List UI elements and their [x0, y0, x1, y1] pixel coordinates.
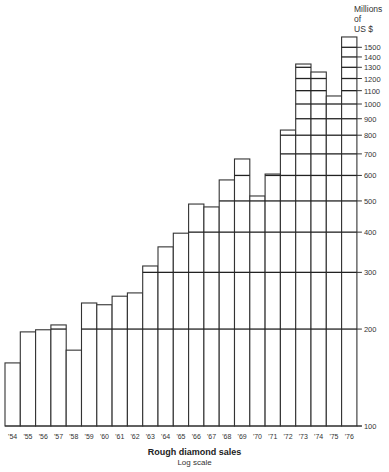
bar	[66, 350, 81, 426]
y-tick-label: 1500	[364, 43, 381, 52]
unit-line-1: Millions	[354, 4, 382, 14]
bar	[20, 332, 35, 426]
x-tick-label: '59	[85, 433, 94, 440]
x-tick-label: '68	[222, 433, 231, 440]
x-tick-label: '69	[238, 433, 247, 440]
y-tick-label: 1100	[364, 87, 380, 96]
bar	[127, 293, 142, 426]
y-tick-label: 800	[364, 131, 377, 140]
x-tick-label: '58	[69, 433, 78, 440]
unit-line-3: US $	[354, 24, 382, 34]
bar	[280, 130, 295, 426]
bar	[82, 303, 97, 426]
x-tick-label: '66	[192, 433, 201, 440]
bar	[112, 296, 127, 426]
y-tick-label: 400	[364, 228, 377, 237]
x-tick-label: '56	[39, 433, 48, 440]
bar	[265, 174, 280, 426]
bar	[342, 37, 357, 426]
unit-line-2: of	[354, 14, 382, 24]
y-tick-label: 100	[364, 422, 377, 431]
x-tick-label: '75	[329, 433, 338, 440]
x-tick-label: '74	[314, 433, 323, 440]
bar	[250, 196, 265, 426]
bar	[158, 247, 173, 426]
chart-subtitle: Log scale	[0, 458, 389, 467]
bar	[189, 204, 204, 426]
x-tick-label: '72	[283, 433, 292, 440]
x-tick-label: '73	[299, 433, 308, 440]
bar	[36, 330, 51, 426]
x-tick-label: '67	[207, 433, 216, 440]
bar-chart: 1002003004005006007008009001000110012001…	[0, 0, 389, 472]
x-tick-label: '76	[345, 433, 354, 440]
x-tick-label: '71	[268, 433, 277, 440]
y-axis-unit-label: Millions of US $	[354, 4, 382, 34]
y-tick-label: 200	[364, 325, 377, 334]
bar	[326, 96, 341, 426]
y-tick-label: 1300	[364, 63, 381, 72]
bar	[311, 72, 326, 426]
x-tick-label: '61	[115, 433, 124, 440]
y-tick-label: 500	[364, 197, 377, 206]
x-tick-label: '64	[161, 433, 170, 440]
x-tick-label: '70	[253, 433, 262, 440]
bar	[5, 363, 20, 426]
chart-root: 1002003004005006007008009001000110012001…	[0, 0, 389, 472]
bar	[97, 305, 112, 426]
x-tick-label: '55	[23, 433, 32, 440]
x-tick-label: '62	[130, 433, 139, 440]
chart-title: Rough diamond sales	[0, 447, 389, 457]
x-tick-label: '65	[176, 433, 185, 440]
bar	[51, 325, 66, 426]
bar	[204, 207, 219, 426]
x-tick-label: '57	[54, 433, 63, 440]
x-tick-label: '63	[146, 433, 155, 440]
y-tick-label: 1000	[364, 100, 381, 109]
y-tick-label: 700	[364, 150, 377, 159]
x-tick-label: '60	[100, 433, 109, 440]
y-tick-label: 1400	[364, 53, 381, 62]
bar	[235, 159, 250, 426]
bar	[143, 266, 158, 426]
y-tick-label: 600	[364, 171, 377, 180]
x-tick-label: '54	[8, 433, 17, 440]
y-tick-label: 300	[364, 268, 377, 277]
y-tick-label: 900	[364, 115, 377, 124]
bar	[219, 180, 234, 426]
y-tick-label: 1200	[364, 75, 381, 84]
